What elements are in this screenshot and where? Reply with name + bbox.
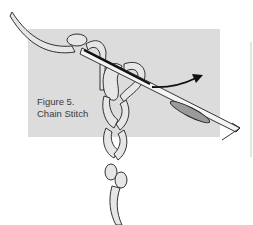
needle-icon — [80, 48, 240, 140]
needle-illustration — [0, 0, 253, 225]
direction-arrow-icon — [152, 74, 203, 87]
chain-stitch-thread — [10, 12, 145, 225]
figure-chain-stitch: Figure 5. Chain Stitch — [0, 0, 253, 225]
